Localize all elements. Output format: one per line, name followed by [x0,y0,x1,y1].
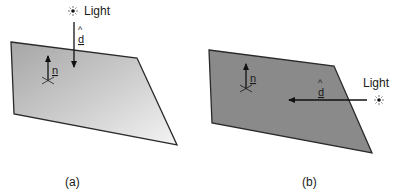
sun-icon [374,95,384,105]
panel-a: n ^ d Light (a) [11,4,177,189]
normal-label-a: n [52,64,58,76]
direction-label-a: d [78,33,84,45]
sun-icon [68,6,78,16]
caption-a: (a) [65,175,80,189]
surface-plane-b [209,50,372,153]
direction-label-b: d [318,86,324,98]
panel-b: n ^ d Light (b) [209,50,390,189]
light-label-b: Light [363,76,390,90]
caption-b: (b) [302,175,317,189]
surface-plane-a [11,42,177,145]
diagram-canvas: n ^ d Light (a) [0,0,406,194]
normal-label-b: n [250,72,256,84]
light-label-a: Light [84,4,111,18]
